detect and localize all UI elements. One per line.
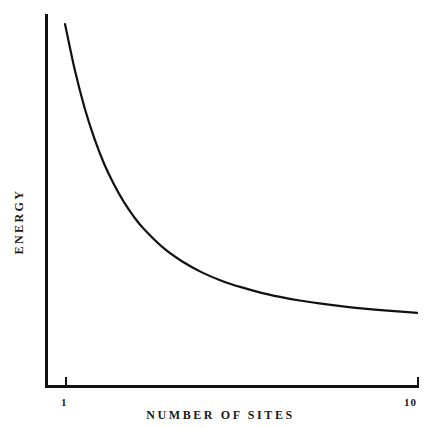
- x-axis-line: [45, 385, 419, 388]
- energy-vs-sites-figure: 1 10 ENERGY NUMBER OF SITES: [0, 0, 441, 428]
- y-axis-line: [45, 14, 48, 388]
- x-axis-tick-end: [417, 377, 419, 386]
- x-axis-tick-label-end: 10: [404, 396, 417, 408]
- x-axis-tick-label-start: 1: [61, 396, 68, 408]
- y-axis-title: ENERGY: [12, 177, 27, 267]
- plot-area: [0, 0, 441, 428]
- x-axis-tick-start: [65, 377, 67, 386]
- x-axis-title: NUMBER OF SITES: [0, 408, 441, 423]
- energy-decay-curve: [65, 24, 417, 313]
